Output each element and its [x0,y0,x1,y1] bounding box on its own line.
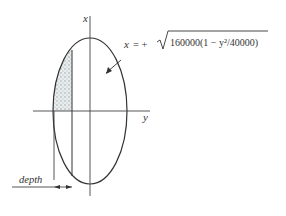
y-axis-label: y [142,111,148,123]
equation-radicand: 160000(1 − y²/40000) [170,37,258,49]
depth-label: depth [19,174,42,185]
depth-arrow-right [66,185,72,189]
equation-lhs: x [123,38,129,50]
shaded-region [53,38,72,111]
x-axis-label: x [82,12,88,24]
equation-prefix: = + [133,39,148,50]
depth-arrow-left [54,185,60,189]
ellipse-diagram: x y depth x = + 160000(1 − y²/40000) [0,0,286,216]
